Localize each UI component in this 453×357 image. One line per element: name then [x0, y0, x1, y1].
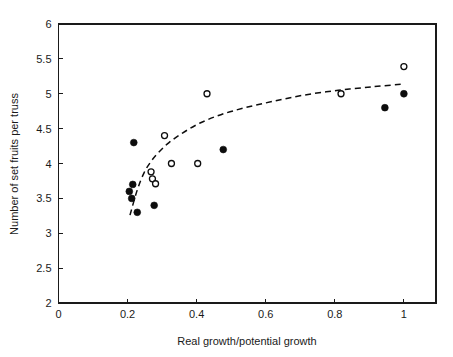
svg-text:3: 3 — [45, 227, 51, 239]
svg-text:0.2: 0.2 — [120, 308, 135, 320]
scatter-plot: 00.20.40.60.81 22.533.544.555.56 Real gr… — [0, 0, 453, 357]
open-circle-marker — [401, 64, 407, 70]
figure-container: 00.20.40.60.81 22.533.544.555.56 Real gr… — [0, 0, 453, 357]
filled-circle-marker — [130, 139, 137, 146]
svg-text:0.6: 0.6 — [258, 308, 273, 320]
svg-text:6: 6 — [45, 18, 51, 30]
svg-text:0: 0 — [55, 308, 61, 320]
filled-circle-marker — [151, 202, 158, 209]
filled-circle-marker — [129, 181, 136, 188]
svg-text:4: 4 — [45, 158, 51, 170]
open-circle-marker — [195, 161, 201, 167]
open-circle-data-points — [148, 64, 407, 187]
svg-text:0.4: 0.4 — [189, 308, 204, 320]
y-axis-tick-labels: 22.533.544.555.56 — [36, 18, 51, 309]
x-axis-tick-labels: 00.20.40.60.81 — [55, 308, 407, 320]
open-circle-marker — [338, 91, 344, 97]
y-axis-title: Number of set fruits per truss — [8, 93, 20, 235]
svg-text:5: 5 — [45, 88, 51, 100]
filled-circle-marker — [126, 188, 133, 195]
svg-text:3.5: 3.5 — [36, 192, 51, 204]
svg-text:2: 2 — [45, 297, 51, 309]
filled-circle-marker — [134, 209, 141, 216]
filled-circle-marker — [381, 104, 388, 111]
filled-circle-data-points — [126, 90, 407, 215]
open-circle-marker — [204, 91, 210, 97]
filled-circle-marker — [220, 146, 227, 153]
open-circle-marker — [153, 181, 159, 187]
filled-circle-marker — [128, 195, 135, 202]
open-circle-marker — [148, 169, 154, 175]
svg-text:1: 1 — [401, 308, 407, 320]
x-axis-title: Real growth/potential growth — [177, 335, 316, 347]
fitted-trend-line — [130, 84, 404, 215]
axis-frame — [59, 24, 437, 303]
svg-text:2.5: 2.5 — [36, 262, 51, 274]
svg-text:0.8: 0.8 — [327, 308, 342, 320]
filled-circle-marker — [400, 90, 407, 97]
open-circle-marker — [162, 133, 168, 139]
svg-text:5.5: 5.5 — [36, 53, 51, 65]
open-circle-marker — [168, 161, 174, 167]
svg-text:4.5: 4.5 — [36, 123, 51, 135]
